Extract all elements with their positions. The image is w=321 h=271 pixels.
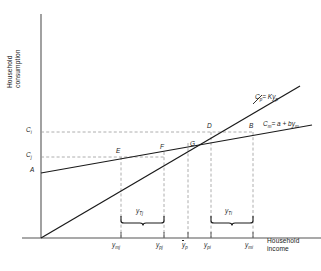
x-axis-title-line2: income xyxy=(267,245,289,252)
x-tick-label-ymi: ymi xyxy=(245,241,253,248)
brace-yTi xyxy=(211,216,253,226)
guide-lines-vertical xyxy=(121,132,253,238)
brace-label-yTi: yTi xyxy=(225,207,232,214)
brace-yTj xyxy=(121,216,164,226)
brace-label-yTj: yTj xyxy=(136,207,143,214)
line-label-permanent-consumption: Cp= Kyp xyxy=(255,93,278,100)
point-label-G: G xyxy=(190,140,195,147)
point-label-B: B xyxy=(249,122,253,129)
point-label-F: F xyxy=(160,143,164,150)
consumption-function-figure: Household consumption Household income C… xyxy=(0,0,321,271)
y-axis-title-line2: consumption xyxy=(14,50,21,89)
x-tick-label-yp-bar: yp xyxy=(182,241,188,248)
point-label-E: E xyxy=(116,147,120,154)
x-axis-title-line1: Household xyxy=(267,237,299,244)
figure-canvas xyxy=(0,0,321,271)
y-axis-title-line1: Household xyxy=(6,56,13,88)
x-axis-ticks xyxy=(121,232,253,238)
guide-lines-horizontal xyxy=(41,132,253,157)
x-tick-label-ypi: ypi xyxy=(204,241,211,248)
point-label-A: A xyxy=(30,166,34,173)
y-axis-title: Household consumption xyxy=(6,50,22,89)
x-tick-label-ypj: ypj xyxy=(156,241,163,248)
y-tick-label-Cj: Cj xyxy=(26,151,32,158)
y-tick-label-Ci: Ci xyxy=(26,126,32,133)
point-label-D: D xyxy=(207,122,212,129)
line-permanent-consumption xyxy=(41,86,300,238)
x-axis-title: Household income xyxy=(267,237,299,252)
line-label-measured-consumption: Cm= a + bym xyxy=(263,120,299,127)
x-tick-label-ymj: ymj xyxy=(112,241,120,248)
